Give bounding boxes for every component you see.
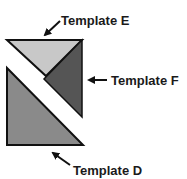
arrow-template-d <box>53 153 70 165</box>
template-diagram: Template E Template F Template D <box>0 0 187 179</box>
label-template-e: Template E <box>61 14 129 27</box>
label-template-f: Template F <box>111 74 179 87</box>
label-template-d: Template D <box>73 164 142 177</box>
arrow-template-e <box>45 21 60 35</box>
